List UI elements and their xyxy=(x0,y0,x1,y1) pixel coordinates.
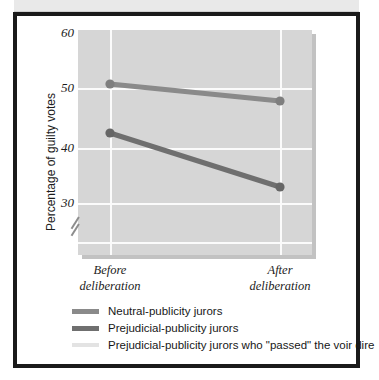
x-tick-before-line1: Before xyxy=(50,263,170,279)
axis-break-icon xyxy=(68,218,84,240)
x-tick-after-line2: deliberation xyxy=(220,279,340,295)
gridline-x-after xyxy=(280,30,282,255)
gridline-y-bottom xyxy=(78,242,312,244)
legend-item-prejudicial-passed-voir-dire: Prejudicial-publicity jurors who "passed… xyxy=(72,337,352,353)
legend-swatch-prejudicial-passed-voir-dire xyxy=(72,343,99,347)
y-axis-title: Percentage of guilty votes xyxy=(44,67,58,257)
legend-item-prejudicial-publicity: Prejudicial-publicity jurors xyxy=(72,320,352,336)
legend-label-prejudicial-passed-voir-dire: Prejudicial-publicity jurors who "passed… xyxy=(108,339,374,351)
legend-label-prejudicial-publicity: Prejudicial-publicity jurors xyxy=(108,322,238,334)
plot-area xyxy=(78,30,312,255)
gridline-x-before xyxy=(110,30,112,255)
gridline-y-30 xyxy=(78,203,312,205)
legend-item-neutral-publicity: Neutral-publicity jurors xyxy=(72,303,352,319)
x-tick-label-after: After deliberation xyxy=(220,263,340,294)
legend-swatch-prejudicial-publicity xyxy=(72,326,99,331)
legend-label-neutral-publicity: Neutral-publicity jurors xyxy=(108,305,222,317)
line-chart: 60 50 40 30 Percentage of guilty votes B… xyxy=(0,0,379,380)
y-tick-label-60: 60 xyxy=(40,25,74,41)
x-tick-after-line1: After xyxy=(220,263,340,279)
legend-swatch-neutral-publicity xyxy=(72,309,99,314)
gridline-y-50 xyxy=(78,88,312,90)
x-tick-label-before: Before deliberation xyxy=(50,263,170,294)
chart-legend: Neutral-publicity jurors Prejudicial-pub… xyxy=(72,303,352,354)
gridline-y-40 xyxy=(78,148,312,150)
x-tick-before-line2: deliberation xyxy=(50,279,170,295)
